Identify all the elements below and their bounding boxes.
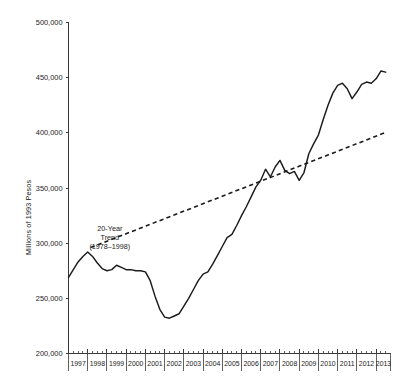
x-tick-label: 2000 (128, 360, 143, 367)
y-tick-label: 450,000 (36, 73, 63, 82)
y-tick-label: 200,000 (36, 349, 63, 358)
x-tick-label: 2005 (224, 360, 239, 367)
x-tick-label: 2009 (301, 360, 316, 367)
chart-figure: 200,000250,000300,000350,000400,000450,0… (0, 0, 409, 390)
x-tick-label: 1997 (70, 360, 85, 367)
annotation-line: 20-Year (97, 224, 123, 233)
y-tick-label: 400,000 (36, 128, 63, 137)
x-tick-label-group: 1997199819992000200120022003200420052006… (70, 360, 391, 367)
x-tick-label: 2007 (263, 360, 278, 367)
annotation-line: (1978–1998) (89, 242, 130, 251)
chart-canvas: 200,000250,000300,000350,000400,000450,0… (0, 0, 409, 390)
chart-background (0, 0, 409, 390)
x-tick-label: 2002 (167, 360, 182, 367)
y-tick-label: 500,000 (36, 18, 63, 27)
x-tick-label: 2010 (320, 360, 335, 367)
y-axis-title: Millions of 1993 Pesos (24, 180, 33, 255)
x-tick-label: 2003 (186, 360, 201, 367)
y-tick-label: 350,000 (36, 184, 63, 193)
x-tick-label: 2006 (243, 360, 258, 367)
x-tick-label: 2013 (376, 360, 391, 367)
x-tick-label: 2012 (359, 360, 374, 367)
x-tick-label: 1999 (109, 360, 124, 367)
x-tick-label: 2011 (340, 360, 355, 367)
y-tick-label: 250,000 (36, 294, 63, 303)
x-tick-label: 2008 (282, 360, 297, 367)
y-axis-title-text: Millions of 1993 Pesos (24, 180, 33, 255)
x-tick-label: 2001 (147, 360, 162, 367)
annotation-line: Trend (101, 233, 120, 242)
x-tick-label: 1998 (90, 360, 105, 367)
x-tick-label: 2004 (205, 360, 220, 367)
y-tick-label: 300,000 (36, 239, 63, 248)
